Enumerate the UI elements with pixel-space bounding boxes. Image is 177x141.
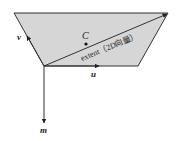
point-c [84, 42, 87, 45]
diagram-canvas: C v u m extent（2D向量） [0, 0, 177, 141]
vector-m-label: m [40, 125, 47, 135]
vector-u-label: u [91, 69, 96, 79]
point-c-label: C [82, 30, 89, 41]
vector-v-label: v [17, 32, 22, 42]
